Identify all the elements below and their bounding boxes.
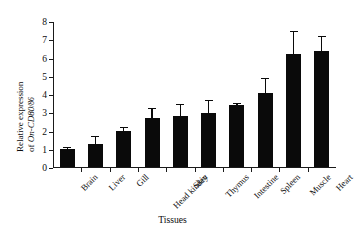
x-tick-mark — [223, 168, 224, 172]
y-tick-mark — [49, 150, 53, 151]
y-tick-mark — [49, 132, 53, 133]
x-tick-label: Gill — [134, 172, 151, 189]
x-tick-mark — [279, 168, 280, 172]
error-bar-cap — [318, 36, 326, 37]
error-bar — [321, 36, 322, 52]
y-tick-label: 6 — [42, 54, 47, 64]
x-tick-label: Heart — [334, 172, 354, 193]
y-axis-gene-name: On-CD80 — [26, 107, 36, 143]
y-tick-label: 3 — [42, 108, 47, 118]
y-tick-mark — [49, 95, 53, 96]
x-axis-title: Tissues — [0, 214, 345, 225]
y-tick-label: 4 — [42, 90, 47, 100]
bar — [145, 118, 160, 167]
bar — [201, 113, 216, 167]
error-bar — [208, 100, 209, 114]
x-tick-label: Intestine — [252, 172, 280, 200]
error-bar — [151, 108, 152, 119]
y-tick-label: 2 — [42, 127, 47, 137]
error-bar-cap — [233, 103, 241, 104]
error-bar — [293, 31, 294, 55]
y-tick-mark — [49, 59, 53, 60]
y-tick-mark — [49, 40, 53, 41]
bar — [116, 131, 131, 167]
x-tick-label: Liver — [107, 172, 128, 193]
x-tick-mark — [166, 168, 167, 172]
bar — [60, 149, 75, 167]
x-tick-label: Brain — [79, 172, 100, 193]
error-bar-cap — [176, 104, 184, 105]
bar — [258, 93, 273, 167]
bar — [229, 105, 244, 167]
x-tick-mark — [81, 168, 82, 172]
error-bar-cap — [91, 136, 99, 137]
error-bar-cap — [120, 127, 128, 128]
y-axis-title-line1: Relative expression — [15, 82, 25, 152]
y-tick-label: 0 — [42, 163, 47, 173]
error-bar-cap — [290, 31, 298, 32]
error-bar-cap — [205, 100, 213, 101]
bar — [286, 54, 301, 167]
y-tick-mark — [49, 168, 53, 169]
error-bar — [180, 104, 181, 117]
x-tick-mark — [308, 168, 309, 172]
error-bar-cap — [148, 108, 156, 109]
error-bar-cap — [261, 78, 269, 79]
bar — [314, 51, 329, 167]
y-tick-mark — [49, 113, 53, 114]
bar — [173, 116, 188, 167]
y-tick-label: 7 — [42, 35, 47, 45]
x-tick-mark — [138, 168, 139, 172]
x-tick-mark — [251, 168, 252, 172]
x-tick-mark — [110, 168, 111, 172]
x-tick-label: Muscle — [307, 172, 332, 197]
y-tick-mark — [49, 77, 53, 78]
y-tick-label: 5 — [42, 72, 47, 82]
y-axis-title: Relative expression of On-CD80/86 — [0, 0, 40, 175]
x-tick-mark — [195, 168, 196, 172]
y-tick-mark — [49, 22, 53, 23]
y-axis-title-prefix: of — [26, 142, 36, 152]
x-tick-label: Thymus — [223, 172, 250, 199]
plot-area: 012345678 — [53, 22, 336, 168]
error-bar — [95, 136, 96, 145]
y-axis-title-line2: of On-CD80/86 — [26, 97, 36, 152]
y-axis-gene-suffix: /86 — [27, 97, 36, 106]
y-tick-label: 1 — [42, 145, 47, 155]
y-tick-label: 8 — [42, 17, 47, 27]
x-tick-label: Spleen — [278, 172, 302, 196]
error-bar-cap — [63, 147, 71, 148]
error-bar — [265, 78, 266, 94]
bar — [88, 144, 103, 167]
y-axis-line — [53, 22, 54, 168]
